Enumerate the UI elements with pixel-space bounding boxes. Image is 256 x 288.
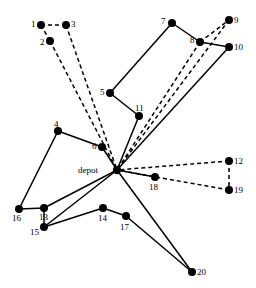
node-label-18: 18 xyxy=(149,183,158,192)
node-label-12: 12 xyxy=(234,157,243,166)
node-marker-depot[interactable] xyxy=(113,166,121,174)
node-marker-17[interactable] xyxy=(122,212,130,220)
edge-solid xyxy=(19,131,58,209)
node-label-10: 10 xyxy=(234,43,243,52)
edge-dashed xyxy=(50,41,117,170)
node-marker-1[interactable] xyxy=(37,21,45,29)
node-marker-20[interactable] xyxy=(188,268,196,276)
edge-solid xyxy=(44,170,117,208)
node-label-15: 15 xyxy=(30,228,39,237)
node-label-11: 11 xyxy=(135,104,144,113)
node-label-2: 2 xyxy=(40,38,45,47)
edge-dashed xyxy=(117,20,229,170)
edge-solid xyxy=(172,23,200,42)
node-marker-8[interactable] xyxy=(196,38,204,46)
edge-dashed xyxy=(117,170,229,190)
node-marker-10[interactable] xyxy=(225,43,233,51)
node-marker-6[interactable] xyxy=(98,143,106,151)
node-marker-5[interactable] xyxy=(106,89,114,97)
node-marker-18[interactable] xyxy=(151,173,159,181)
depot-label: depot xyxy=(78,166,98,175)
edge-dashed xyxy=(117,161,229,170)
node-marker-14[interactable] xyxy=(99,204,107,212)
node-label-14: 14 xyxy=(98,214,107,223)
node-label-3: 3 xyxy=(71,20,76,29)
node-marker-19[interactable] xyxy=(225,186,233,194)
node-label-19: 19 xyxy=(234,186,243,195)
node-label-20: 20 xyxy=(197,268,206,277)
node-label-16: 16 xyxy=(12,214,21,223)
network-diagram-canvas: 1234567891011121314151617181920depot xyxy=(0,0,256,288)
node-marker-16[interactable] xyxy=(15,205,23,213)
node-marker-9[interactable] xyxy=(225,16,233,24)
graph-svg xyxy=(0,0,256,288)
node-label-4: 4 xyxy=(54,120,59,129)
edge-solid xyxy=(117,116,139,170)
node-label-8: 8 xyxy=(190,36,195,45)
node-marker-12[interactable] xyxy=(225,157,233,165)
edge-solid xyxy=(44,208,103,227)
node-label-13: 13 xyxy=(39,213,48,222)
edge-solid xyxy=(126,216,192,272)
node-marker-7[interactable] xyxy=(168,19,176,27)
node-marker-3[interactable] xyxy=(62,21,70,29)
node-label-5: 5 xyxy=(100,88,105,97)
node-marker-13[interactable] xyxy=(40,204,48,212)
edge-solid xyxy=(200,42,229,47)
node-label-17: 17 xyxy=(120,223,129,232)
edge-solid xyxy=(110,23,172,93)
node-label-1: 1 xyxy=(31,20,36,29)
edge-dashed xyxy=(117,42,200,170)
node-label-7: 7 xyxy=(161,17,166,26)
node-marker-11[interactable] xyxy=(135,112,143,120)
node-marker-15[interactable] xyxy=(40,223,48,231)
node-marker-2[interactable] xyxy=(46,37,54,45)
node-label-9: 9 xyxy=(234,16,239,25)
node-label-6: 6 xyxy=(92,142,97,151)
